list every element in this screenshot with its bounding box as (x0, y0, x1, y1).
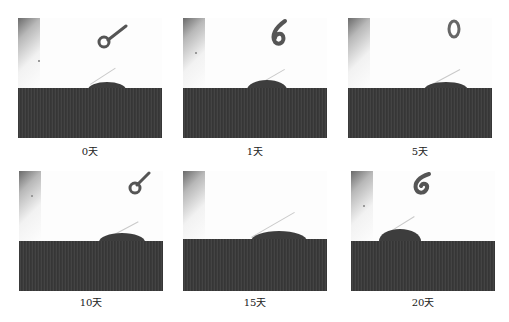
scale-gradient (19, 171, 41, 241)
dispensing-needle-icon (409, 171, 435, 197)
panel-label-day0: 0天 (18, 143, 162, 158)
substrate (183, 239, 327, 291)
water-droplet (379, 229, 421, 241)
scale-gradient (183, 18, 205, 88)
panel-day1 (183, 18, 327, 138)
scale-gradient (348, 18, 370, 88)
substrate (183, 88, 327, 138)
panel-label-day20: 20天 (351, 294, 495, 309)
scale-gradient (351, 171, 373, 241)
scale-tick (195, 52, 197, 54)
panel-label-day15: 15天 (183, 294, 327, 309)
panel-day5 (348, 18, 492, 138)
substrate (19, 241, 163, 291)
substrate (348, 88, 492, 138)
contact-angle-figure: 0天 1天 5天 10天 (0, 0, 509, 322)
panel-day0 (18, 18, 162, 138)
dispensing-needle-icon (94, 24, 130, 50)
scale-tick (31, 195, 33, 197)
substrate (351, 241, 495, 291)
panel-label-day10: 10天 (19, 294, 163, 309)
scale-gradient (18, 18, 40, 88)
panel-label-day1: 1天 (183, 143, 327, 158)
dispensing-needle-icon (125, 171, 153, 197)
panel-day15 (183, 171, 327, 291)
scale-tick (363, 205, 365, 207)
panel-day20 (351, 171, 495, 291)
dispensing-needle-icon (446, 18, 462, 40)
panel-label-day5: 5天 (348, 143, 492, 158)
substrate (18, 88, 162, 138)
scale-tick (38, 60, 40, 62)
scale-gradient (183, 171, 205, 241)
panel-day10 (19, 171, 163, 291)
dispensing-needle-icon (267, 18, 291, 48)
